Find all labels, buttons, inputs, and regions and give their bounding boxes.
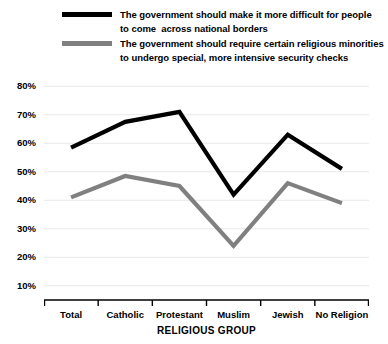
y-axis-tick-label: 50% [17,167,36,177]
chart-legend: The government should make it more diffi… [0,6,388,68]
y-axis-tick-label: 20% [17,252,36,262]
plot-area [44,72,369,300]
y-axis-tick-label: 10% [17,281,36,291]
legend-label-borders-line2: to come across national borders [120,22,372,36]
x-axis-tick-label: No Religion [316,309,369,321]
legend-label-security-checks-line2: to undergo special, more intensive secur… [120,51,384,65]
y-axis-tick-labels: 10%20%30%40%50%60%70%80% [0,72,40,300]
y-axis-tick-label: 40% [17,195,36,205]
y-axis-tick-label: 70% [17,110,36,120]
y-axis-tick-label: 30% [17,224,36,234]
x-axis-tick-label: Catholic [107,309,144,321]
legend-swatch-borders [62,12,112,17]
x-axis-title: RELIGIOUS GROUP [44,325,369,336]
x-axis-tick-label: Protestant [156,309,203,321]
y-axis-tick-label: 80% [17,81,36,91]
legend-item-security-checks: The government should require certain re… [62,37,384,64]
x-axis-tick-label: Total [60,309,82,321]
x-axis-line [44,299,369,308]
legend-label-borders-line1: The government should make it more diffi… [120,8,372,22]
legend-item-borders: The government should make it more diffi… [62,8,372,35]
x-axis-tick-label: Jewish [272,309,304,321]
legend-label-borders: The government should make it more diffi… [120,8,372,35]
y-axis-tick-label: 60% [17,138,36,148]
x-axis-tick-labels: TotalCatholicProtestantMuslimJewishNo Re… [44,309,369,323]
x-axis-tick-label: Muslim [217,309,250,321]
legend-label-security-checks-line1: The government should require certain re… [120,37,384,51]
series-line-security-checks [71,176,342,246]
chart-figure: The government should make it more diffi… [0,0,388,344]
legend-label-security-checks: The government should require certain re… [120,37,384,64]
plot-svg [44,72,369,300]
legend-swatch-security-checks [62,41,112,46]
